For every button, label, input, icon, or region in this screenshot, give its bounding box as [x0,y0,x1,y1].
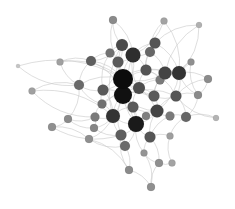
graph-node [147,183,155,191]
graph-node [128,102,139,113]
graph-node [106,109,120,123]
graph-node [213,115,219,121]
graph-node [194,91,202,99]
graph-node [181,112,191,122]
graph-node [188,59,195,66]
graph-node [171,91,182,102]
graph-node [116,130,127,141]
graph-node [74,80,84,90]
graph-node [85,135,93,143]
graph-node [151,105,164,118]
graph-node [29,88,36,95]
graph-node [150,38,161,49]
graph-node [90,124,98,132]
graph-edge [190,62,198,95]
graph-node [113,57,124,68]
graph-node [116,39,128,51]
graph-node [48,123,56,131]
graph-node [125,166,133,174]
graph-node [141,65,152,76]
graph-edge [32,91,95,117]
graph-node [167,133,174,140]
graph-node [141,150,148,157]
graph-node [172,66,186,80]
graph-node [166,112,175,121]
graph-node [161,18,168,25]
graph-node [120,141,130,151]
graph-node [91,113,100,122]
graph-node [64,115,72,123]
graph-edge [32,82,79,91]
graph-node [149,91,160,102]
graph-node [109,16,117,24]
graph-node [145,132,156,143]
graph-node [126,48,141,63]
graph-edge [18,60,123,79]
graph-node [57,59,64,66]
graph-edge [168,136,172,163]
network-graph [0,0,235,209]
graph-edge [52,127,89,139]
graph-node [155,159,163,167]
graph-node [133,82,145,94]
graph-node [86,56,96,66]
graph-node [98,100,107,109]
graph-node [169,160,176,167]
graph-node [113,69,133,89]
graph-node [142,112,150,120]
graph-node [204,75,212,83]
graph-node [128,116,144,132]
graph-node [16,64,20,68]
graph-node [159,67,172,80]
graph-node [196,22,202,28]
graph-edge [164,21,180,73]
graph-edge [165,25,199,73]
graph-node [98,85,109,96]
graph-node [106,49,115,58]
